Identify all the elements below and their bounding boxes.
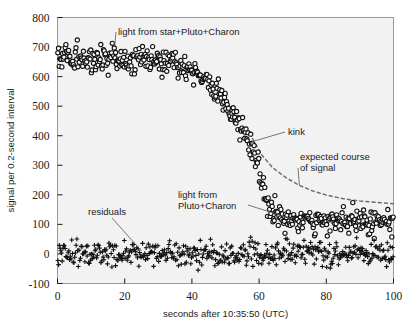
data-point	[308, 211, 312, 215]
data-point	[214, 81, 218, 85]
data-point	[173, 50, 177, 54]
data-point	[123, 49, 127, 53]
annotation-label: Pluto+Charon	[178, 200, 236, 211]
x-tick-label: 60	[253, 290, 265, 302]
data-point	[133, 68, 137, 72]
y-tick-label: 0	[44, 248, 50, 260]
y-tick-label: 700	[32, 41, 50, 53]
data-point	[296, 230, 300, 234]
data-point	[145, 49, 149, 53]
data-point	[216, 77, 220, 81]
annotation-label: kink	[288, 126, 305, 137]
data-point	[88, 57, 92, 61]
data-point	[269, 200, 273, 204]
data-point	[273, 194, 277, 198]
data-point	[263, 185, 267, 189]
data-point	[325, 234, 329, 238]
data-point	[160, 75, 164, 79]
data-point	[129, 64, 133, 68]
annotation-label: residuals	[88, 206, 126, 217]
y-tick-label: 600	[32, 71, 50, 83]
data-point	[98, 57, 102, 61]
data-point	[276, 223, 280, 227]
data-point	[95, 51, 99, 55]
data-point	[132, 72, 136, 76]
data-point	[340, 211, 344, 215]
data-point	[339, 228, 343, 232]
data-point	[235, 109, 239, 113]
data-point	[85, 65, 89, 69]
data-point	[301, 220, 305, 224]
data-point	[140, 44, 144, 48]
data-point	[110, 41, 114, 45]
data-point	[223, 91, 227, 95]
data-point	[151, 45, 155, 49]
x-tick-label: 100	[385, 290, 403, 302]
data-point	[67, 48, 71, 52]
data-point	[155, 59, 159, 63]
x-tick-label: 0	[55, 290, 61, 302]
data-point	[247, 148, 251, 152]
data-point	[226, 106, 230, 110]
y-tick-label: 100	[32, 218, 50, 230]
y-tick-label: -100	[28, 278, 49, 290]
y-tick-label: 400	[32, 130, 50, 142]
data-point	[279, 207, 283, 211]
data-point	[176, 76, 180, 80]
data-point	[192, 83, 196, 87]
data-point	[56, 46, 60, 50]
data-point	[60, 65, 64, 69]
data-point	[286, 210, 290, 214]
data-point	[351, 201, 355, 205]
data-point	[300, 226, 304, 230]
data-point	[328, 229, 332, 233]
data-point	[386, 207, 390, 211]
data-point	[99, 42, 103, 46]
annotation-label: light from	[178, 189, 217, 200]
data-point	[283, 231, 287, 235]
data-point	[250, 156, 254, 160]
data-point	[75, 38, 79, 42]
data-point	[68, 54, 72, 58]
data-point	[266, 196, 270, 200]
data-point	[257, 156, 261, 160]
x-tick-label: 80	[321, 290, 333, 302]
data-point	[325, 222, 329, 226]
data-point	[362, 208, 366, 212]
data-point	[241, 115, 245, 119]
data-point	[238, 138, 242, 142]
data-point	[76, 65, 80, 69]
data-point	[391, 215, 395, 219]
data-point	[74, 46, 78, 50]
data-point	[347, 231, 351, 235]
data-point	[255, 161, 259, 165]
data-point	[114, 50, 118, 54]
annotation-label: expected course	[300, 151, 370, 162]
y-tick-label: 200	[32, 189, 50, 201]
data-point	[368, 217, 372, 221]
chart-svg: -100010020030040050060070080002040608010…	[0, 0, 409, 323]
data-point	[165, 69, 169, 73]
data-point	[62, 55, 66, 59]
data-point	[261, 176, 265, 180]
data-point	[354, 229, 358, 233]
data-point	[270, 204, 274, 208]
data-point	[184, 77, 188, 81]
data-point	[353, 224, 357, 228]
data-point	[258, 172, 262, 176]
data-point	[252, 144, 256, 148]
y-tick-label: 500	[32, 100, 50, 112]
y-tick-label: 300	[32, 159, 50, 171]
data-point	[106, 73, 110, 77]
data-point	[56, 51, 60, 55]
annotation-label: light from star+Pluto+Charon	[118, 26, 239, 37]
x-axis-title: seconds after 10:35:50 (UTC)	[163, 308, 288, 319]
data-point	[290, 222, 294, 226]
y-tick-label: 800	[32, 12, 50, 24]
data-point	[390, 235, 394, 239]
data-point	[249, 132, 253, 136]
data-point	[388, 227, 392, 231]
x-tick-label: 20	[119, 290, 131, 302]
data-point	[341, 205, 345, 209]
data-point	[333, 226, 337, 230]
